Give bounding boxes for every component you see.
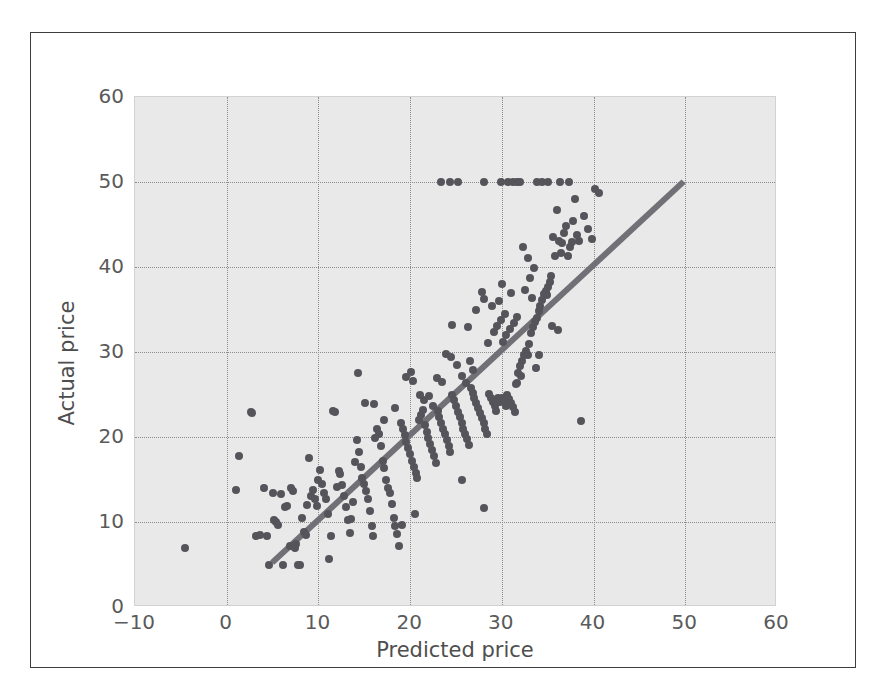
data-point (577, 417, 585, 425)
data-point (409, 377, 417, 385)
data-point (556, 178, 564, 186)
x-tick-label: 20 (396, 610, 421, 634)
data-point (432, 459, 440, 467)
data-point (302, 531, 310, 539)
data-point (480, 295, 488, 303)
y-axis-label: Actual price (55, 213, 79, 513)
x-tick-label: 40 (580, 610, 605, 634)
data-point (338, 481, 346, 489)
data-point (564, 252, 572, 260)
data-point (533, 314, 541, 322)
data-point (584, 225, 592, 233)
gridline-vertical (318, 97, 319, 605)
data-point (565, 178, 573, 186)
data-point (353, 436, 361, 444)
data-point (318, 480, 326, 488)
data-point (296, 561, 304, 569)
data-point (433, 374, 441, 382)
data-point (324, 510, 332, 518)
y-tick-label: 20 (99, 424, 124, 448)
x-tick-label: 60 (763, 610, 788, 634)
data-point (232, 486, 240, 494)
data-point (298, 514, 306, 522)
data-point (375, 430, 383, 438)
data-point (364, 495, 372, 503)
gridline-horizontal (135, 267, 775, 268)
data-point (277, 490, 285, 498)
data-point (454, 178, 462, 186)
data-point (448, 321, 456, 329)
data-point (437, 178, 445, 186)
data-point (447, 353, 455, 361)
y-tick-label: 0 (111, 594, 124, 618)
data-point (289, 487, 297, 495)
data-point (377, 442, 385, 450)
data-point (283, 502, 291, 510)
data-point (588, 235, 596, 243)
x-tick-label: 30 (488, 610, 513, 634)
data-point (382, 476, 390, 484)
data-point (391, 404, 399, 412)
data-point (336, 470, 344, 478)
data-point (466, 357, 474, 365)
data-point (535, 351, 543, 359)
data-point (274, 521, 282, 529)
data-point (263, 532, 271, 540)
data-point (543, 291, 551, 299)
data-point (368, 522, 376, 530)
data-point (390, 514, 398, 522)
gridline-vertical (227, 97, 228, 605)
data-point (425, 392, 433, 400)
data-point (465, 441, 473, 449)
data-point (411, 510, 419, 518)
gridline-vertical (502, 97, 503, 605)
reference-line (135, 97, 775, 605)
y-tick-label: 40 (99, 254, 124, 278)
data-point (380, 416, 388, 424)
gridline-horizontal (135, 522, 775, 523)
data-point (316, 466, 324, 474)
x-axis-label: Predicted price (134, 638, 776, 662)
data-point (370, 400, 378, 408)
x-tick-label: 50 (672, 610, 697, 634)
data-point (380, 464, 388, 472)
data-point (235, 452, 243, 460)
data-point (524, 254, 532, 262)
data-point (446, 448, 454, 456)
data-point (325, 555, 333, 563)
data-point (366, 507, 374, 515)
data-point (524, 351, 532, 359)
data-point (472, 306, 480, 314)
data-point (407, 368, 415, 376)
data-point (322, 495, 330, 503)
data-point (453, 361, 461, 369)
data-point (269, 489, 277, 497)
data-point (512, 380, 520, 388)
data-point (480, 504, 488, 512)
data-point (398, 521, 406, 529)
gridline-vertical (685, 97, 686, 605)
data-point (571, 195, 579, 203)
data-point (480, 178, 488, 186)
data-point (469, 366, 477, 374)
data-point (446, 178, 454, 186)
data-point (313, 502, 321, 510)
data-point (305, 454, 313, 462)
data-point (488, 302, 496, 310)
data-point (265, 561, 273, 569)
data-point (369, 532, 377, 540)
y-tick-label: 50 (99, 169, 124, 193)
data-point (492, 407, 500, 415)
figure-frame: −100102030405060 0102030405060 Predicted… (30, 32, 856, 668)
data-point (260, 484, 268, 492)
data-point (554, 326, 562, 334)
x-tick-label: 0 (219, 610, 232, 634)
data-point (560, 229, 568, 237)
data-point (361, 399, 369, 407)
data-point (511, 408, 519, 416)
data-point (478, 288, 486, 296)
data-point (248, 409, 256, 417)
data-point (519, 243, 527, 251)
data-point (181, 544, 189, 552)
data-point (553, 206, 561, 214)
